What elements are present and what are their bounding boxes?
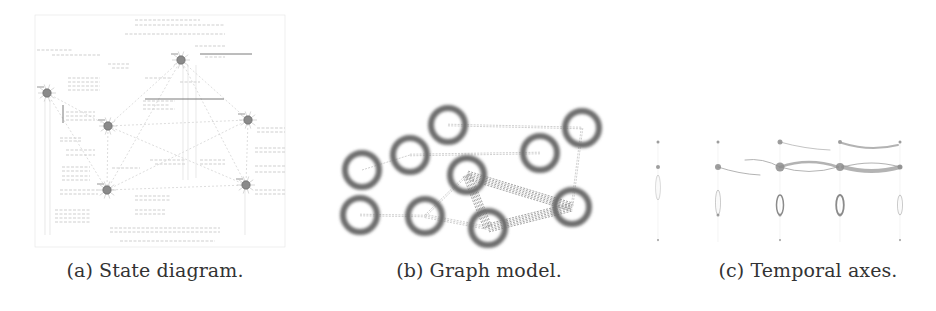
caption-graph-model: (b) Graph model.: [396, 259, 562, 281]
transition-arc: [843, 163, 900, 167]
transition-arc: [842, 143, 898, 148]
transition-arc: [843, 167, 900, 171]
time-point: [839, 214, 842, 217]
caption-temporal-axes: (c) Temporal axes.: [719, 259, 898, 281]
transition-arc: [780, 162, 838, 167]
time-point: [836, 163, 844, 171]
caption-state-diagram: (a) State diagram.: [66, 259, 243, 281]
time-point: [778, 140, 783, 145]
transition-arc: [780, 142, 830, 150]
temporal-axes-graphic: [0, 0, 936, 255]
time-point: [779, 214, 782, 217]
subfigure-c-temporal-axes: [0, 0, 936, 255]
transition-arc: [718, 167, 760, 175]
transition-arc: [745, 159, 780, 167]
transition-arc: [780, 167, 838, 172]
time-point: [717, 214, 720, 217]
time-point: [656, 165, 660, 169]
time-point: [715, 164, 721, 170]
time-point: [776, 163, 785, 172]
time-point: [899, 141, 902, 144]
time-point: [657, 239, 659, 241]
time-point: [899, 239, 901, 241]
time-point: [898, 165, 903, 170]
time-point: [838, 140, 842, 144]
time-point: [779, 239, 781, 241]
time-point: [657, 141, 660, 144]
time-point: [717, 141, 720, 144]
